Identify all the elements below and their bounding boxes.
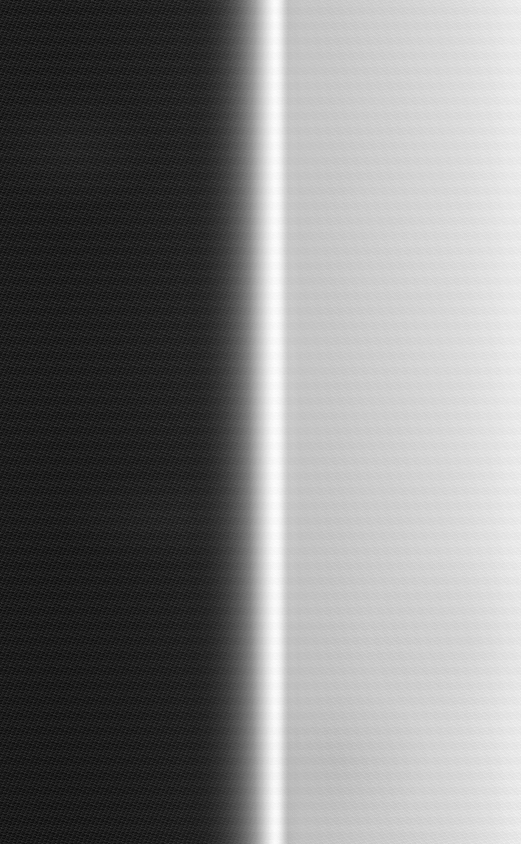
luminance-ramp-layer xyxy=(0,0,521,844)
image-canvas: Grayscale vertical edge gradient A near-… xyxy=(0,0,521,844)
